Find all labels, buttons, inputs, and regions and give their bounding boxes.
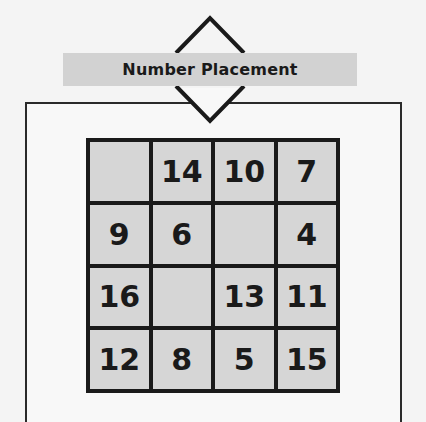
grid-cell-r3c4[interactable]: 11: [278, 268, 337, 327]
grid-cell-r3c1[interactable]: 16: [90, 268, 149, 327]
grid-cell-r3c3[interactable]: 13: [215, 268, 274, 327]
title-banner: Number Placement: [63, 53, 357, 86]
grid-cell-r4c4[interactable]: 15: [278, 330, 337, 389]
grid-cell-r1c4[interactable]: 7: [278, 142, 337, 201]
grid-cell-r2c1[interactable]: 9: [90, 205, 149, 264]
grid-cell-r3c2[interactable]: [153, 268, 212, 327]
grid-cell-r1c1[interactable]: [90, 142, 149, 201]
grid-cell-r4c2[interactable]: 8: [153, 330, 212, 389]
grid-cell-r4c3[interactable]: 5: [215, 330, 274, 389]
grid-cell-r2c3[interactable]: [215, 205, 274, 264]
grid-cell-r4c1[interactable]: 12: [90, 330, 149, 389]
grid-cell-r1c3[interactable]: 10: [215, 142, 274, 201]
grid-cell-r1c2[interactable]: 14: [153, 142, 212, 201]
grid-cell-r2c4[interactable]: 4: [278, 205, 337, 264]
page-title: Number Placement: [122, 60, 297, 79]
number-grid: 14 10 7 9 6 4 16 13 11 12 8 5 15: [86, 138, 340, 393]
grid-cell-r2c2[interactable]: 6: [153, 205, 212, 264]
